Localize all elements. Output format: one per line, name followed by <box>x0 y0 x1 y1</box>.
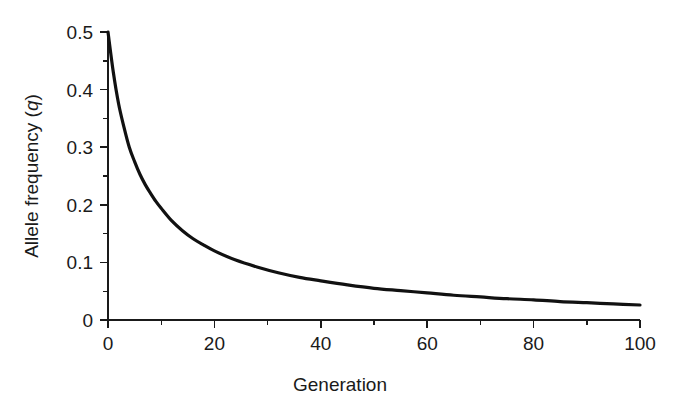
y-tick-label-1: 0.1 <box>67 252 93 273</box>
y-axis-title-italic-q: q <box>21 100 42 111</box>
y-axis-title: Allele frequency (q) <box>21 94 42 258</box>
allele-frequency-line-chart: 00.10.20.30.40.5 020406080100 Generation… <box>0 0 679 403</box>
y-tick-label-5: 0.5 <box>67 22 93 43</box>
x-tick-label-2: 40 <box>310 333 331 354</box>
y-tick-label-0: 0 <box>82 310 93 331</box>
x-tick-label-0: 0 <box>103 333 114 354</box>
y-axis-title-close-paren: ) <box>21 94 42 100</box>
x-tick-label-3: 60 <box>417 333 438 354</box>
svg-text:Allele frequency (q): Allele frequency (q) <box>21 94 42 258</box>
x-tick-label-1: 20 <box>204 333 225 354</box>
x-tick-label-4: 80 <box>523 333 544 354</box>
chart-figure: 00.10.20.30.40.5 020406080100 Generation… <box>0 0 679 403</box>
x-tick-label-5: 100 <box>624 333 656 354</box>
y-tick-label-4: 0.4 <box>67 80 94 101</box>
y-tick-label-2: 0.2 <box>67 195 93 216</box>
x-axis-title: Generation <box>293 374 387 395</box>
y-axis-title-plain: Allele frequency ( <box>21 110 42 257</box>
y-tick-label-3: 0.3 <box>67 137 93 158</box>
